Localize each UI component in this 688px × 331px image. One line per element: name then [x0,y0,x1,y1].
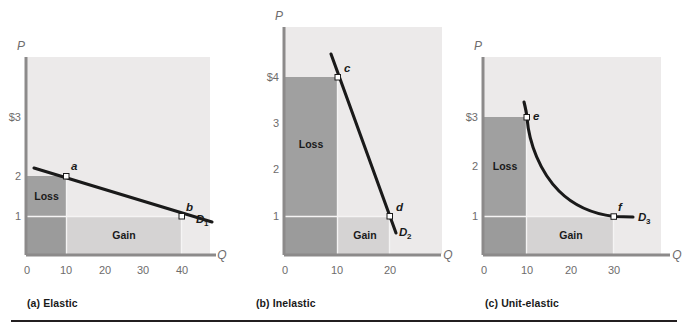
panel-caption-c: (c) Unit-elastic [485,297,559,309]
chart-b: c d D 2 Loss Gain P Q $4 3 2 1 0 10 20 [229,0,458,300]
x-tick-label-b-1: 10 [331,264,343,276]
x-axis-title-c: Q [672,248,681,262]
y-axis-title-c: P [474,39,482,53]
curve-label-d2-sub: 2 [407,232,412,241]
chart-a: a b D 1 Loss Gain P Q $3 2 1 0 10 20 30 … [0,0,229,300]
overlap-region-c [484,216,527,254]
x-tick-label-c-1: 10 [521,264,533,276]
point-marker-f [611,214,617,220]
panel-unit-elastic: e f D 3 Loss Gain P Q $3 2 1 0 10 20 30 … [458,0,687,331]
y-tick-label-b-3: 1 [273,210,279,222]
x-tick-label-c-3: 30 [608,264,620,276]
y-tick-label-b-0: $4 [267,71,279,83]
point-marker-c [335,75,341,81]
y-tick-label-a-1: 2 [15,170,21,182]
curve-label-d3-sub: 3 [646,217,651,226]
point-label-a: a [71,160,78,172]
panel-inelastic: c d D 2 Loss Gain P Q $4 3 2 1 0 10 20 (… [229,0,458,331]
point-label-b: b [186,201,193,213]
point-marker-d [387,214,393,220]
point-label-e: e [533,110,540,122]
overlap-region-b [285,216,338,254]
y-tick-label-c-0: $3 [466,111,478,123]
y-tick-label-c-1: 2 [472,160,478,172]
panel-caption-a: (a) Elastic [27,297,78,309]
panel-elastic: a b D 1 Loss Gain P Q $3 2 1 0 10 20 30 … [0,0,229,331]
loss-label-c: Loss [493,160,518,172]
bottom-rule [11,320,677,322]
x-tick-label-b-0: 0 [282,264,288,276]
x-tick-label-a-3: 30 [137,264,149,276]
point-marker-a [64,174,70,180]
y-axis-title-a: P [17,39,25,53]
overlap-region-a [27,216,66,254]
point-label-c: c [344,62,351,74]
curve-label-d1-sub: 1 [204,219,209,228]
gain-label-c: Gain [559,229,582,241]
point-marker-e [524,115,530,121]
y-tick-label-b-1: 3 [273,117,279,129]
point-label-d: d [396,201,404,213]
gain-label-b: Gain [353,229,376,241]
x-axis-title-b: Q [443,248,452,262]
x-tick-label-c-2: 20 [565,264,577,276]
loss-label-a: Loss [34,190,59,202]
x-tick-label-a-2: 20 [99,264,111,276]
chart-c: e f D 3 Loss Gain P Q $3 2 1 0 10 20 30 [458,0,687,300]
y-tick-label-a-2: 1 [15,210,21,222]
gain-label-a: Gain [112,229,135,241]
elasticity-figure: a b D 1 Loss Gain P Q $3 2 1 0 10 20 30 … [0,0,688,331]
x-tick-label-a-1: 10 [60,264,72,276]
y-axis-title-b: P [275,9,283,23]
loss-label-b: Loss [299,138,324,150]
point-marker-b [179,214,185,220]
x-tick-label-c-0: 0 [481,264,487,276]
panel-caption-b: (b) Inelastic [256,297,316,309]
x-tick-label-a-0: 0 [24,264,30,276]
y-tick-label-c-2: 1 [472,210,478,222]
x-axis-title-a: Q [217,248,226,262]
x-tick-label-b-2: 20 [384,264,396,276]
x-tick-label-a-4: 40 [176,264,188,276]
y-tick-label-a-0: $3 [9,111,21,123]
y-tick-label-b-2: 2 [273,163,279,175]
